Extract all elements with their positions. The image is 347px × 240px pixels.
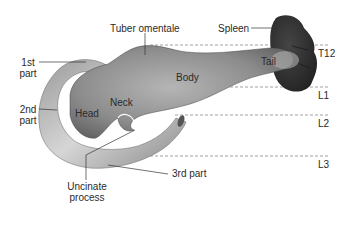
label-head: Head <box>75 108 99 119</box>
label-first-part-line1: 1st <box>17 57 39 68</box>
label-level-l2: L2 <box>318 118 329 129</box>
label-second-part-line1: 2nd <box>17 104 39 115</box>
label-first-part: 1st part <box>17 57 39 79</box>
label-first-part-line2: part <box>17 68 39 79</box>
label-second-part: 2nd part <box>17 104 39 126</box>
label-second-part-line2: part <box>17 115 39 126</box>
label-uncinate-line1: Uncinate <box>64 181 110 192</box>
label-level-t12: T12 <box>318 48 335 59</box>
label-tuber-omentale: Tuber omentale <box>110 23 180 34</box>
label-level-l1: L1 <box>318 90 329 101</box>
label-body: Body <box>176 72 199 83</box>
label-third-part: 3rd part <box>172 168 206 179</box>
label-level-l3: L3 <box>318 159 329 170</box>
label-tail: Tail <box>261 56 276 67</box>
label-uncinate-line2: process <box>64 192 110 203</box>
label-spleen: Spleen <box>218 23 249 34</box>
label-neck: Neck <box>110 97 133 108</box>
label-uncinate-process: Uncinate process <box>64 181 110 203</box>
